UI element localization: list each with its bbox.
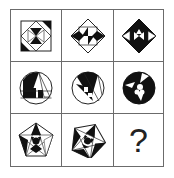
diamond-filled-pattern-icon <box>121 18 157 54</box>
cell-r3-c1 <box>11 114 62 166</box>
diamond-pattern-icon <box>70 18 106 54</box>
question-mark: ? <box>129 123 148 157</box>
cell-r2-c3 <box>114 62 163 114</box>
circle-filled-pattern-icon <box>122 71 156 105</box>
cell-r3-c2 <box>62 114 114 166</box>
cell-r2-c2 <box>62 62 114 114</box>
cell-r1-c2 <box>62 10 114 62</box>
puzzle-grid: ? <box>10 9 164 167</box>
cell-r1-c3 <box>114 10 163 62</box>
circle-pattern-icon <box>19 71 53 105</box>
cell-r1-c1 <box>11 10 62 62</box>
cell-r3-c3-answer: ? <box>114 114 163 166</box>
pentagon-pattern-icon <box>18 122 54 158</box>
cell-r2-c1 <box>11 62 62 114</box>
circle-pattern-rotated-icon <box>71 71 105 105</box>
pentagon-rotated-pattern-icon <box>70 122 106 158</box>
square-pattern-icon <box>20 20 52 52</box>
